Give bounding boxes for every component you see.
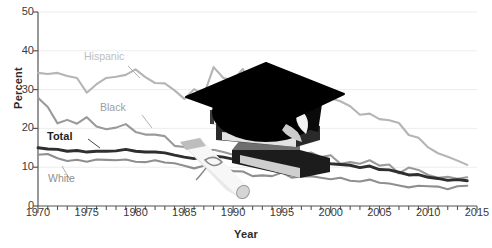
- x-tick-label: 1970: [18, 206, 58, 218]
- x-tick-label: 2005: [359, 206, 399, 218]
- x-tick-label: 1995: [262, 206, 302, 218]
- x-tick-label: 1985: [164, 206, 204, 218]
- x-axis-tick-labels: 1970197519801985199019952000200520102015: [0, 206, 492, 224]
- chart-figure: Percent 01020304050 19701975198019851990…: [0, 0, 492, 248]
- series-label-total: Total: [47, 130, 72, 142]
- x-tick-label: 2010: [408, 206, 448, 218]
- x-tick-label: 1975: [67, 206, 107, 218]
- label-leader-line: [142, 115, 152, 128]
- x-axis-title: Year: [0, 228, 492, 240]
- x-tick-label: 2015: [457, 206, 492, 218]
- series-label-black: Black: [100, 101, 126, 113]
- x-tick-label: 1980: [116, 206, 156, 218]
- graduation-cap-books-diploma-icon: [180, 63, 344, 201]
- series-label-hispanic: Hispanic: [84, 50, 124, 62]
- x-tick-label: 2000: [311, 206, 351, 218]
- series-label-white: White: [48, 172, 75, 184]
- label-leader-line: [88, 139, 100, 148]
- x-tick-label: 1990: [213, 206, 253, 218]
